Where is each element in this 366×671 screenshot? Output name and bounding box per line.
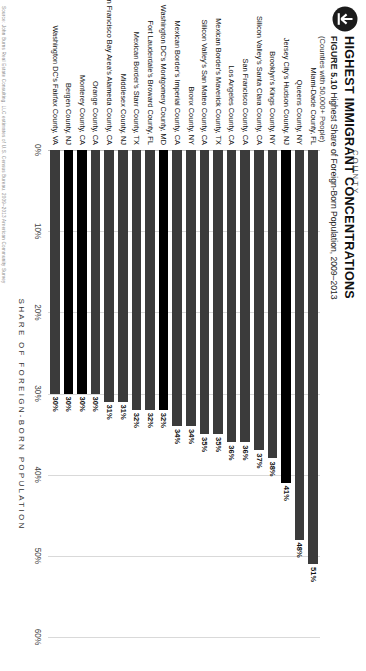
- bar-row: Bronx County, NY34%: [186, 150, 196, 637]
- bar[interactable]: [281, 150, 291, 483]
- x-tick-10%: 10%: [33, 223, 42, 239]
- bar-row: Silicon Valley's San Mateo County, CA35%: [200, 150, 210, 637]
- bar-value-label: 30%: [91, 397, 101, 412]
- bar-row: Brooklyn's Kings County, NY38%: [268, 150, 278, 637]
- bar-value-label: 30%: [64, 397, 74, 412]
- bar-category-label: Brooklyn's Kings County, NY: [268, 51, 278, 145]
- x-tick-50%: 50%: [33, 548, 42, 564]
- bar[interactable]: [64, 150, 74, 394]
- bar[interactable]: [159, 150, 169, 410]
- x-axis-title: SHARE OF FOREIGN-BORN POPULATION: [17, 299, 26, 531]
- figure-subtitle-line: FIGURE 5.10 Highest Share of Foreign-Bor…: [330, 36, 340, 636]
- bar[interactable]: [77, 150, 87, 394]
- bar-value-label: 36%: [227, 445, 237, 460]
- bar-category-label: Bronx County, NY: [186, 86, 196, 145]
- bar-category-label: Monterey County, CA: [77, 75, 87, 145]
- bar-row: San Francisco Bay Area's Alameda County,…: [104, 150, 114, 637]
- bar[interactable]: [227, 150, 237, 442]
- bar-value-label: 34%: [172, 429, 182, 444]
- bar[interactable]: [308, 150, 318, 564]
- source-note: Source: John Burns Real Estate Consultin…: [1, 6, 6, 284]
- bar-category-label: Fort Lauderdale's Broward County, FL: [145, 20, 155, 145]
- bar-value-label: 41%: [281, 486, 291, 501]
- bar-row: Mexican Border's Maverick County, TX35%: [213, 150, 223, 637]
- county-column-header: COUNTY: [351, 150, 360, 195]
- bar-value-label: 30%: [50, 397, 60, 412]
- bar-row: Queens County, NY48%: [295, 150, 305, 637]
- figure-subtitle: Highest Share of Foreign-Born Population…: [330, 92, 340, 299]
- bar-category-label: Silicon Valley's Santa Clara County, CA: [254, 16, 264, 145]
- bar[interactable]: [213, 150, 223, 434]
- bar-value-label: 36%: [240, 445, 250, 460]
- bar-category-label: Silicon Valley's San Mateo County, CA: [200, 19, 210, 145]
- x-tick-0%: 0%: [33, 144, 42, 156]
- bar-row: Jersey City's Hudson County, NJ41%: [281, 150, 291, 637]
- bar-row: San Francisco County, CA36%: [240, 150, 250, 637]
- bar-row: Bergen County, NJ30%: [64, 150, 74, 637]
- bar-row: Monterey County, CA30%: [77, 150, 87, 637]
- bar-value-label: 32%: [159, 413, 169, 428]
- bar-category-label: Mexican Border's Imperial County, CA: [172, 21, 182, 146]
- bar-value-label: 35%: [213, 437, 223, 452]
- bar[interactable]: [91, 150, 101, 394]
- bar[interactable]: [240, 150, 250, 442]
- bar[interactable]: [104, 150, 114, 402]
- bar[interactable]: [50, 150, 60, 394]
- bar-value-label: 38%: [268, 461, 278, 476]
- bar-category-label: Jersey City's Hudson County, NJ: [281, 38, 291, 145]
- x-tick-40%: 40%: [33, 466, 42, 482]
- bar[interactable]: [295, 150, 305, 540]
- bar-value-label: 31%: [118, 405, 128, 420]
- bar-rows: Miami-Dade County, FL51%Queens County, N…: [48, 150, 320, 637]
- bar[interactable]: [200, 150, 210, 434]
- bar[interactable]: [118, 150, 128, 402]
- bar-category-label: Mexican Border's Starr County, TX: [132, 32, 142, 145]
- page-title: HIGHEST IMMIGRANT CONCENTRATIONS: [342, 36, 356, 636]
- bar-row: Mexican Border's Imperial County, CA34%: [172, 150, 182, 637]
- bar[interactable]: [145, 150, 155, 410]
- bar-category-label: Mexican Border's Maverick County, TX: [213, 18, 223, 145]
- bar-row: Washington DC's Fairfax County, VA30%: [50, 150, 60, 637]
- figure-header: HIGHEST IMMIGRANT CONCENTRATIONS FIGURE …: [319, 36, 357, 636]
- bar-row: Silicon Valley's Santa Clara County, CA3…: [254, 150, 264, 637]
- bar-value-label: 31%: [104, 405, 114, 420]
- bar-row: Los Angeles County, CA36%: [227, 150, 237, 637]
- bar[interactable]: [132, 150, 142, 410]
- figure-number: FIGURE 5.10: [330, 36, 340, 90]
- bar-category-label: Orange County, CA: [91, 81, 101, 145]
- bar-category-label: Washington DC's Montgomery County, MD: [159, 5, 169, 145]
- bar[interactable]: [254, 150, 264, 450]
- download-arrow-icon[interactable]: [332, 6, 358, 32]
- bar-chart-plot: Miami-Dade County, FL51%Queens County, N…: [48, 150, 320, 637]
- bar-category-label: San Francisco County, CA: [240, 58, 250, 145]
- bar-category-label: Los Angeles County, CA: [227, 65, 237, 145]
- gridline-60: [48, 637, 320, 638]
- bar-value-label: 35%: [200, 437, 210, 452]
- bar-value-label: 48%: [295, 543, 305, 558]
- x-tick-20%: 20%: [33, 304, 42, 320]
- bar-value-label: 37%: [254, 453, 264, 468]
- bar-row: Middlesex County, NJ31%: [118, 150, 128, 637]
- bar[interactable]: [172, 150, 182, 426]
- bar-value-label: 51%: [308, 567, 318, 582]
- bar-value-label: 32%: [145, 413, 155, 428]
- figure-canvas: HIGHEST IMMIGRANT CONCENTRATIONS FIGURE …: [0, 0, 366, 671]
- bar-category-label: Bergen County, NJ: [64, 83, 74, 145]
- bar-row: Mexican Border's Starr County, TX32%: [132, 150, 142, 637]
- bar[interactable]: [268, 150, 278, 458]
- bar-row: Miami-Dade County, FL51%: [308, 150, 318, 637]
- bar-category-label: Miami-Dade County, FL: [308, 68, 318, 146]
- bar[interactable]: [186, 150, 196, 426]
- bar-category-label: San Francisco Bay Area's Alameda County,…: [104, 0, 114, 145]
- bar-category-label: Washington DC's Fairfax County, VA: [50, 25, 60, 145]
- bar-row: Fort Lauderdale's Broward County, FL32%: [145, 150, 155, 637]
- bar-value-label: 30%: [77, 397, 87, 412]
- bar-value-label: 34%: [186, 429, 196, 444]
- bar-category-label: Queens County, NY: [295, 80, 305, 145]
- bar-row: Washington DC's Montgomery County, MD32%: [159, 150, 169, 637]
- bar-value-label: 32%: [132, 413, 142, 428]
- x-tick-60%: 60%: [33, 629, 42, 645]
- bar-category-label: Middlesex County, NJ: [118, 74, 128, 145]
- x-tick-30%: 30%: [33, 385, 42, 401]
- bar-row: Orange County, CA30%: [91, 150, 101, 637]
